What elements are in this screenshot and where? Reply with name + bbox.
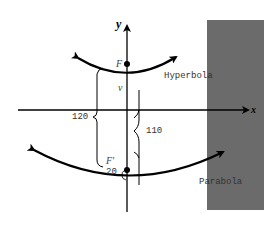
y-axis-label: y — [116, 18, 121, 30]
measure-20-label: 20 — [106, 168, 117, 177]
right-brace-top — [134, 110, 139, 118]
right-brace — [134, 90, 139, 185]
parabola-label: Parabola — [199, 178, 242, 187]
focus-bottom-label: F' — [106, 156, 114, 166]
measure-110-label: 110 — [146, 127, 162, 136]
diagram-svg — [0, 0, 277, 225]
focus-top-label: F — [116, 59, 122, 69]
measure-120-label: 120 — [72, 113, 88, 122]
right-brace-tick — [134, 152, 139, 158]
x-axis-label: x — [251, 105, 256, 115]
hyperbola-label: Hyperbola — [164, 72, 213, 81]
left-brace — [93, 68, 103, 167]
focus-top-point — [124, 61, 130, 67]
vertex-label: v — [118, 83, 122, 93]
diagram-canvas: y x F v F' Hyperbola Parabola 120 110 20 — [0, 0, 277, 225]
